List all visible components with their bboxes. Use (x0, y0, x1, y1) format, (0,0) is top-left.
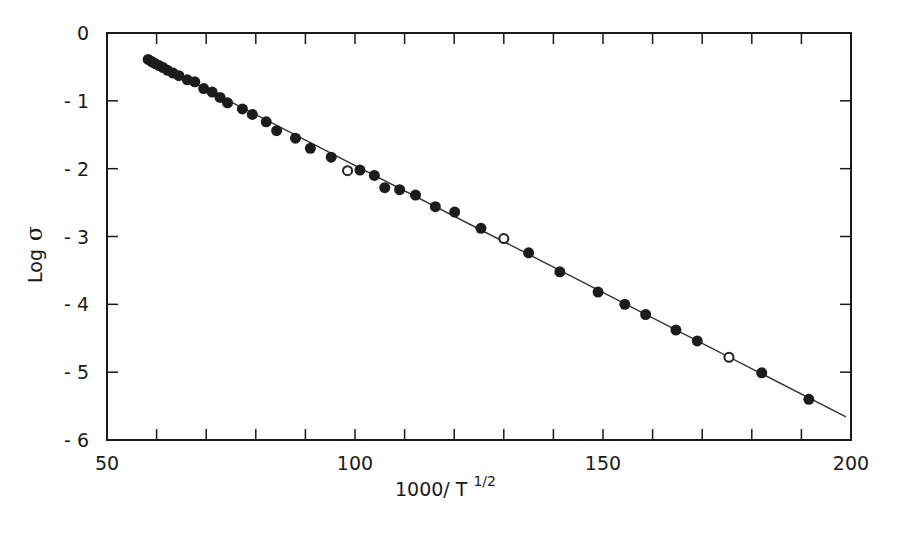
y-tick-labels: 0- 1- 2- 3- 4- 5- 6 (64, 22, 89, 451)
data-point (692, 335, 703, 346)
data-point (619, 299, 630, 310)
data-point (261, 116, 272, 127)
y-axis-title: Logσ (22, 226, 47, 283)
y-tick-label: 0 (77, 22, 89, 44)
data-point (271, 125, 282, 136)
y-tick-label: - 1 (64, 90, 89, 112)
x-tick-label: 100 (337, 452, 373, 474)
data-points (143, 54, 815, 405)
data-point (803, 394, 814, 405)
data-point (189, 76, 200, 87)
data-point (305, 143, 316, 154)
data-point (593, 287, 604, 298)
data-point (247, 109, 258, 120)
data-point (379, 182, 390, 193)
data-point (523, 247, 534, 258)
chart: 50100150200 0- 1- 2- 3- 4- 5- 6 1000/ T1… (0, 0, 901, 547)
data-point (326, 152, 337, 163)
data-point (756, 367, 767, 378)
data-point (430, 201, 441, 212)
y-tick-label: - 3 (64, 226, 89, 248)
y-tick-label: - 4 (64, 293, 89, 315)
y-tick-label: - 2 (64, 158, 89, 180)
data-point-open (343, 166, 352, 175)
data-point (475, 223, 486, 234)
data-point (369, 170, 380, 181)
data-point (640, 309, 651, 320)
data-point (222, 97, 233, 108)
x-axis-title: 1000/ T1/2 (395, 473, 496, 500)
data-point (394, 184, 405, 195)
data-point-open (499, 234, 508, 243)
data-point (237, 103, 248, 114)
x-tick-label: 150 (585, 452, 621, 474)
data-point (670, 325, 681, 336)
y-tick-label: - 6 (64, 429, 89, 451)
data-point-open (724, 353, 733, 362)
x-tick-label: 200 (833, 452, 869, 474)
data-point (290, 133, 301, 144)
data-point (554, 266, 565, 277)
data-point (410, 190, 421, 201)
svg-text:Logσ: Logσ (22, 226, 47, 283)
data-point (354, 165, 365, 176)
x-tick-labels: 50100150200 (95, 452, 869, 474)
x-tick-label: 50 (95, 452, 119, 474)
data-point (449, 207, 460, 218)
y-tick-label: - 5 (64, 361, 89, 383)
